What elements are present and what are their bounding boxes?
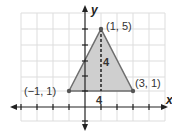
vertex-label-c: (3, 1) xyxy=(135,77,161,89)
x-axis xyxy=(10,104,168,110)
vertex-label-a: (−1, 1) xyxy=(24,85,56,97)
height-dimension-label: 4 xyxy=(103,56,110,68)
vertex-point-a xyxy=(67,89,71,93)
base-dimension-label: 4 xyxy=(96,94,103,106)
coordinate-plane: y x (−1, 1) (1, 5) (3, 1) 4 4 xyxy=(0,0,172,137)
vertex-label-b: (1, 5) xyxy=(106,20,132,32)
vertex-point-b xyxy=(99,27,103,31)
x-axis-label: x xyxy=(165,93,172,107)
vertex-point-c xyxy=(131,89,135,93)
y-axis-label: y xyxy=(90,3,99,17)
